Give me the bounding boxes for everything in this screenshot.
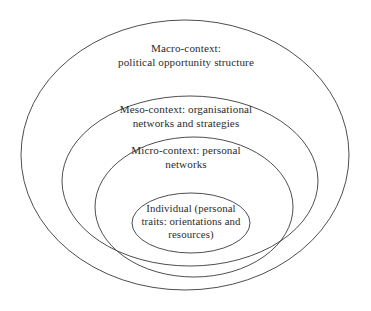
meso-context-label: Meso-context: organisational networks an… xyxy=(76,103,296,130)
macro-context-label: Macro-context: political opportunity str… xyxy=(70,42,302,69)
nested-context-diagram: Macro-context: political opportunity str… xyxy=(0,0,371,311)
individual-label: Individual (personal traits: orientation… xyxy=(122,202,260,242)
micro-context-label: Micro-context: personal networks xyxy=(86,144,286,171)
